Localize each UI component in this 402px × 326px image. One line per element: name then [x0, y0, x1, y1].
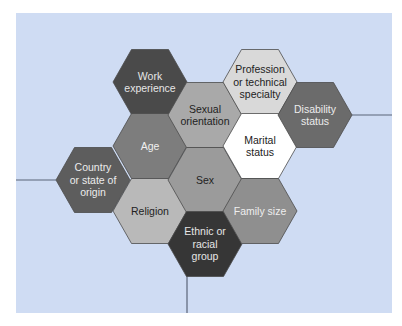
hex-label: Sexual	[189, 103, 221, 115]
hex-label: Country	[75, 161, 113, 173]
diversity-dimensions-hex-diagram: WorkexperienceAgeReligionCountryor state…	[0, 0, 402, 326]
hex-label: specialty	[240, 88, 282, 100]
hex-label: Disability	[294, 103, 337, 115]
hex-label: Age	[141, 140, 160, 152]
hex-label: or technical	[233, 76, 287, 88]
hex-label: status	[301, 115, 329, 127]
hex-label: status	[246, 146, 274, 158]
hex-label: origin	[80, 186, 106, 198]
hex-label: Family size	[234, 205, 287, 217]
hex-label: group	[192, 250, 219, 262]
hex-label: experience	[124, 82, 176, 94]
hex-label: Ethnic or	[184, 225, 226, 237]
hex-label: Work	[138, 70, 163, 82]
hex-label: or state of	[70, 174, 117, 186]
hexagon-group: WorkexperienceAgeReligionCountryor state…	[56, 50, 352, 277]
hex-label: Marital	[244, 134, 276, 146]
hex-label: racial	[192, 238, 217, 250]
hex-label: Sex	[196, 174, 215, 186]
hex-label: Religion	[131, 205, 169, 217]
hex-label: orientation	[180, 115, 229, 127]
hex-label: Profession	[235, 63, 285, 75]
